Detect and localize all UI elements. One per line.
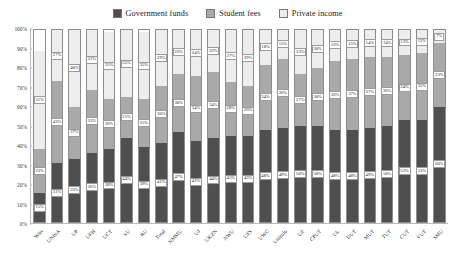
bar-value-label: 27%	[68, 129, 80, 137]
x-axis-label-slot: VUT	[414, 226, 431, 265]
bar-value-label: 14%	[381, 39, 393, 47]
x-axis-label: MUT	[362, 228, 375, 241]
stacked-bar[interactable]: 48%37%15%	[346, 29, 359, 223]
stacked-bar[interactable]: 48%34%18%	[259, 29, 272, 223]
stacked-bar[interactable]: 50%27%23%	[294, 29, 307, 223]
bar-value-label: 44%	[207, 176, 219, 184]
bar-segment: 36%	[87, 153, 98, 222]
bar-value-label: 12%	[416, 38, 428, 46]
bar-slot: 45%28%27%	[222, 29, 239, 223]
stacked-bar[interactable]: 49%36%15%	[277, 29, 290, 223]
bar-segment: 26%	[104, 99, 115, 149]
stacked-bar[interactable]: 60%33%7%	[433, 29, 446, 223]
stacked-bar[interactable]: 31%43%27%	[51, 29, 64, 223]
bar-value-label: 35%	[103, 62, 115, 70]
bar-segment: 22%	[208, 30, 219, 72]
stacked-bar[interactable]: 47%30%23%	[172, 29, 185, 223]
x-axis-label-slot: UFH	[83, 226, 100, 265]
legend-label: Private income	[292, 9, 343, 18]
stacked-bar[interactable]: 44%21%35%	[120, 29, 133, 223]
bar-segment: 38%	[104, 149, 115, 222]
stacked-bar[interactable]: 50%30%20%	[311, 29, 324, 223]
bar-segment: 53%	[399, 120, 410, 222]
bar-segment: 39%	[139, 147, 150, 222]
bar-value-label: 15%	[34, 204, 46, 212]
x-axis-label: DUT	[345, 228, 357, 240]
stacked-bar[interactable]: 33%27%40%	[68, 29, 81, 223]
bar-value-label: 27%	[294, 96, 306, 104]
bar-slot: 49%36%15%	[274, 29, 291, 223]
stacked-bar[interactable]: 45%28%27%	[225, 29, 238, 223]
bar-slot: 47%30%23%	[170, 29, 187, 223]
x-axis	[30, 223, 448, 224]
stacked-bar[interactable]: 15%23%51%	[33, 29, 46, 223]
x-axis-label: NWU	[222, 228, 235, 241]
chart-legend: Government fundsStudent feesPrivate inco…	[0, 9, 455, 18]
bar-value-label: 36%	[86, 183, 98, 191]
x-axis-label-slot: UP	[66, 226, 83, 265]
stacked-bar[interactable]: 39%25%35%	[138, 29, 151, 223]
bar-segment: 15%	[347, 30, 358, 59]
bar-slot: 33%27%40%	[66, 29, 83, 223]
x-axis-label: UFH	[84, 228, 96, 240]
legend-swatch-icon	[206, 9, 215, 18]
bar-value-label: 26%	[242, 107, 254, 115]
bar-segment: 44%	[208, 138, 219, 222]
bar-segment: 28%	[226, 82, 237, 136]
y-axis-tick-label: 100%	[14, 26, 30, 32]
bar-value-label: 49%	[364, 171, 376, 179]
bar-segment: 33%	[434, 43, 445, 106]
bar-slot: 36%33%31%	[83, 29, 100, 223]
y-axis-tick-label: 0%	[20, 221, 30, 227]
stacked-bar[interactable]: 50%36%14%	[381, 29, 394, 223]
bar-segment: 36%	[382, 57, 393, 126]
bar-segment: 45%	[226, 136, 237, 222]
stacked-bar[interactable]: 42%34%24%	[190, 29, 203, 223]
stacked-bar[interactable]: 38%26%35%	[103, 29, 116, 223]
stacked-bar[interactable]: 53%34%13%	[398, 29, 411, 223]
bar-segment: 25%	[139, 99, 150, 147]
y-axis-tick-label: 70%	[17, 85, 30, 91]
legend-item: Student fees	[206, 9, 260, 18]
x-axis-label-slot: Unizulu	[275, 226, 292, 265]
x-axis-label-slot: UL	[327, 226, 344, 265]
bar-segment: 7%	[434, 30, 445, 43]
bar-segment: 29%	[156, 30, 167, 86]
bar-slot: 48%34%18%	[257, 29, 274, 223]
bar-segment: 27%	[52, 30, 63, 81]
bar-segment: 23%	[34, 149, 45, 193]
bar-slot: 44%34%22%	[205, 29, 222, 223]
bar-slot: 44%21%35%	[118, 29, 135, 223]
bar-value-label: 44%	[121, 176, 133, 184]
x-axis-label: TUT	[381, 228, 393, 240]
bar-segment: 30%	[156, 86, 167, 144]
bar-segment: 35%	[417, 53, 428, 120]
bar-value-label: 25%	[138, 119, 150, 127]
x-axis-label-slot: NMMU	[170, 226, 187, 265]
bar-value-label: 34%	[190, 105, 202, 113]
x-axis-labels: WitsUNISAUPUFHUCTSURUTotalNMMUUJUKZNNWUU…	[31, 226, 449, 265]
bar-segment: 50%	[295, 126, 306, 222]
stacked-bar[interactable]: 45%26%29%	[242, 29, 255, 223]
bar-value-label: 23%	[34, 167, 46, 175]
x-axis-label: UCT	[102, 228, 114, 240]
bar-group: 15%23%51%31%43%27%33%27%40%36%33%31%38%2…	[31, 29, 448, 223]
stacked-bar[interactable]: 44%34%22%	[207, 29, 220, 223]
bar-slot: 39%25%35%	[135, 29, 152, 223]
x-axis-label-slot: UCT	[101, 226, 118, 265]
bar-segment: 27%	[226, 30, 237, 82]
bar-value-label: 34%	[399, 84, 411, 92]
bar-value-label: 23%	[294, 48, 306, 56]
bar-segment: 36%	[278, 59, 289, 128]
bar-segment: 49%	[278, 128, 289, 222]
stacked-bar[interactable]: 41%30%29%	[155, 29, 168, 223]
bar-value-label: 27%	[51, 52, 63, 60]
bar-value-label: 53%	[399, 167, 411, 175]
stacked-bar[interactable]: 53%35%12%	[416, 29, 429, 223]
stacked-bar[interactable]: 48%36%16%	[329, 29, 342, 223]
x-axis-label: SMU	[432, 228, 445, 241]
stacked-bar[interactable]: 49%37%14%	[364, 29, 377, 223]
bar-value-label: 22%	[207, 47, 219, 55]
bar-value-label: 18%	[260, 43, 272, 51]
stacked-bar[interactable]: 36%33%31%	[86, 29, 99, 223]
